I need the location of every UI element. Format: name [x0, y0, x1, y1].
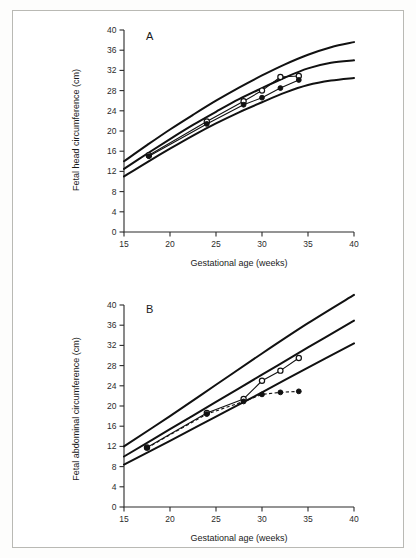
panel-b-x-tick-label: 25	[211, 514, 221, 524]
panel-a-y-tick-label: 12	[107, 166, 117, 176]
figure-root: 152025303540 0481216202428323640 A Gesta…	[0, 0, 416, 558]
panel-b-y-tick-labels: 0481216202428323640	[107, 300, 117, 512]
panel-a-x-axis-title: Gestational age (weeks)	[190, 258, 287, 268]
panel-a-axes	[120, 30, 355, 237]
panel-b-y-tick-label: 36	[107, 320, 117, 330]
panel-b-y-tick-label: 8	[112, 462, 117, 472]
data-point-filled	[278, 86, 283, 91]
panel-a: 152025303540 0481216202428323640 A Gesta…	[0, 0, 416, 279]
data-point-filled	[260, 392, 265, 397]
panel-b-y-tickmarks	[120, 305, 125, 507]
panel-b-axes	[120, 305, 355, 512]
series-line	[147, 391, 299, 448]
centile-curve	[124, 42, 354, 161]
panel-a-y-tick-label: 8	[112, 187, 117, 197]
panel-a-x-tick-label: 20	[165, 239, 175, 249]
panel-b-x-tick-label: 40	[349, 514, 359, 524]
panel-a-y-tick-labels: 0481216202428323640	[107, 25, 117, 237]
panel-b-y-tick-label: 16	[107, 421, 117, 431]
panel-b-y-tick-label: 0	[112, 502, 117, 512]
centile-curve	[124, 78, 354, 176]
centile-curve	[124, 321, 354, 457]
panel-b-plot: 152025303540 0481216202428323640 B Gesta…	[0, 279, 416, 558]
panel-a-y-tick-label: 16	[107, 146, 117, 156]
panel-a-x-tick-label: 25	[211, 239, 221, 249]
panel-b-y-tick-label: 24	[107, 381, 117, 391]
data-point-filled	[241, 102, 246, 107]
panel-b-x-tick-label: 35	[303, 514, 313, 524]
series-line	[147, 358, 299, 447]
panel-a-y-tickmarks	[120, 30, 125, 232]
data-point-filled	[260, 95, 265, 100]
data-point-filled	[146, 154, 151, 159]
panel-b-y-tick-label: 32	[107, 340, 117, 350]
panel-b-x-tick-label: 15	[119, 514, 129, 524]
panel-b-x-tick-label: 20	[165, 514, 175, 524]
panel-b-x-axis-title: Gestational age (weeks)	[190, 533, 287, 543]
panel-b-y-tick-label: 4	[112, 482, 117, 492]
centile-curve	[124, 295, 354, 447]
series-line	[149, 80, 299, 156]
data-point-open	[278, 74, 283, 79]
panel-a-x-tick-label: 35	[303, 239, 313, 249]
panel-a-y-tick-label: 36	[107, 45, 117, 55]
panel-a-plot: 152025303540 0481216202428323640 A Gesta…	[0, 0, 416, 279]
panel-b-measurement-series	[144, 355, 301, 450]
panel-b-y-tick-label: 20	[107, 401, 117, 411]
panel-b-y-axis-title: Fetal abdominal circumference (cm)	[71, 337, 81, 481]
panel-a-x-tick-label: 30	[257, 239, 267, 249]
panel-b-y-tick-label: 28	[107, 361, 117, 371]
data-point-filled	[296, 78, 301, 83]
panel-b-centile-curves	[124, 295, 354, 465]
panel-a-letter: A	[146, 30, 154, 42]
panel-a-y-tick-label: 4	[112, 207, 117, 217]
panel-b-y-tick-label: 12	[107, 441, 117, 451]
data-point-filled	[145, 446, 150, 451]
panel-b: 152025303540 0481216202428323640 B Gesta…	[0, 279, 416, 558]
panel-a-y-tick-label: 24	[107, 106, 117, 116]
panel-b-y-tick-label: 40	[107, 300, 117, 310]
panel-b-x-tick-labels: 152025303540	[119, 514, 359, 524]
panel-a-x-tickmarks	[124, 232, 354, 237]
panel-a-y-tick-label: 20	[107, 126, 117, 136]
panel-a-x-tick-label: 15	[119, 239, 129, 249]
panel-a-y-tick-label: 32	[107, 65, 117, 75]
data-point-filled	[204, 412, 209, 417]
panel-a-centile-curves	[124, 42, 354, 176]
panel-a-x-tick-labels: 152025303540	[119, 239, 359, 249]
data-point-open	[259, 378, 264, 383]
panel-b-x-tick-label: 30	[257, 514, 267, 524]
panel-b-x-tickmarks	[124, 507, 354, 512]
panel-a-y-tick-label: 0	[112, 227, 117, 237]
centile-curve	[124, 60, 354, 169]
data-point-open	[296, 355, 301, 360]
panel-a-axis-lines	[124, 30, 354, 232]
data-point-filled	[296, 389, 301, 394]
panel-a-x-tick-label: 40	[349, 239, 359, 249]
panel-a-y-tick-label: 28	[107, 86, 117, 96]
data-point-filled	[241, 399, 246, 404]
panel-a-y-axis-title: Fetal head circumference (cm)	[71, 69, 81, 191]
data-point-open	[259, 88, 264, 93]
data-point-open	[278, 368, 283, 373]
panel-a-measurement-series	[146, 73, 301, 158]
panel-b-letter: B	[146, 303, 153, 315]
centile-curve	[124, 343, 354, 464]
data-point-filled	[204, 122, 209, 127]
panel-a-y-tick-label: 40	[107, 25, 117, 35]
panel-b-axis-lines	[124, 305, 354, 507]
data-point-filled	[278, 390, 283, 395]
